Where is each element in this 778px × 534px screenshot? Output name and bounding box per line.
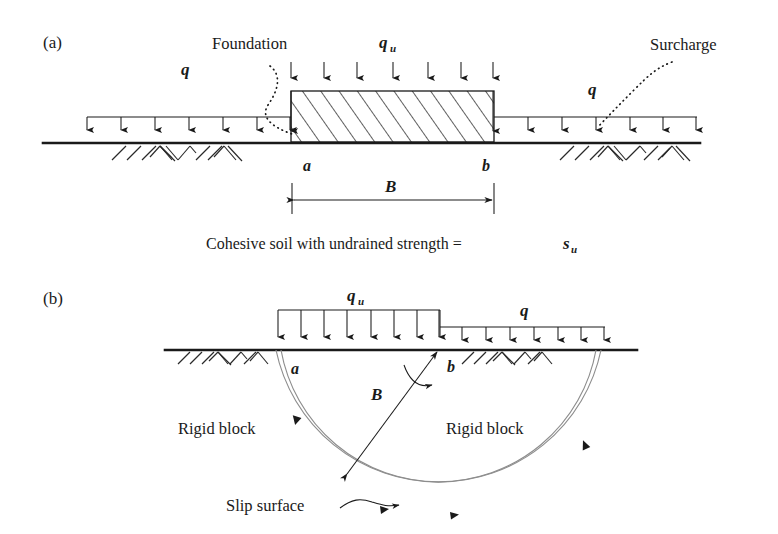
- panel-b: (b) q u: [43, 286, 637, 520]
- slip-arc-outer: [276, 350, 601, 482]
- radius-dimension-b: [347, 352, 437, 474]
- soil-hatch-marks-right: [560, 146, 690, 161]
- panel-b-tag: (b): [43, 289, 63, 308]
- width-dim-label-b: B: [370, 385, 382, 404]
- figure-container: (a) q: [0, 0, 778, 534]
- bearing-pressure-load-a: [291, 62, 493, 78]
- point-b-label-b: b: [447, 358, 455, 375]
- panel-a: (a) q: [43, 33, 717, 255]
- slip-surface-arc: [276, 350, 601, 520]
- point-b-label-a: b: [482, 157, 490, 174]
- bearing-pressure-sub-b: u: [358, 295, 364, 307]
- bearing-pressure-load-b: [278, 310, 440, 337]
- soil-hatch-marks-left: [112, 146, 242, 161]
- soil-hatch-marks-b-left: [178, 352, 268, 365]
- foundation-leader-line: [266, 66, 292, 134]
- bearing-pressure-label-b: q: [347, 286, 356, 305]
- bearing-capacity-diagram: (a) q: [0, 0, 778, 534]
- slip-direction-arrow-2: [380, 506, 389, 514]
- surcharge-load-b: [440, 327, 605, 340]
- slip-arc-inner: [281, 350, 596, 482]
- slip-direction-arrow-1: [291, 415, 301, 425]
- rigid-block-label-right: Rigid block: [446, 419, 524, 438]
- surcharge-load-left-label: q: [181, 60, 190, 79]
- slip-direction-arrow-3: [450, 512, 459, 520]
- surcharge-load-label-b: q: [520, 301, 529, 320]
- bearing-pressure-sub-a: u: [390, 42, 396, 54]
- surcharge-load-right: [494, 117, 697, 130]
- slip-surface-leader-line: [340, 500, 399, 508]
- surcharge-label: Surcharge: [650, 35, 717, 54]
- foundation-block-rect: [291, 91, 494, 142]
- surcharge-load-left: [87, 117, 291, 130]
- caption-symbol-su-sub: u: [571, 243, 577, 255]
- slip-surface-label: Slip surface: [226, 496, 304, 515]
- point-a-label-a: a: [303, 157, 311, 174]
- point-a-label-b: a: [291, 360, 299, 377]
- caption-symbol-su: s: [562, 234, 570, 253]
- foundation-label: Foundation: [212, 34, 287, 53]
- surcharge-load-right-label: q: [588, 80, 597, 99]
- panel-a-tag: (a): [43, 33, 62, 52]
- rigid-block-label-left: Rigid block: [178, 419, 256, 438]
- bearing-pressure-label-a: q: [379, 33, 388, 52]
- point-b-leader-b: [404, 365, 432, 386]
- width-dim-label-a: B: [384, 177, 396, 196]
- foundation-block: [291, 91, 494, 142]
- cohesive-soil-caption: Cohesive soil with undrained strength =: [206, 235, 462, 253]
- slip-direction-arrow-4: [581, 439, 591, 450]
- soil-hatch-marks-b-right: [462, 352, 552, 365]
